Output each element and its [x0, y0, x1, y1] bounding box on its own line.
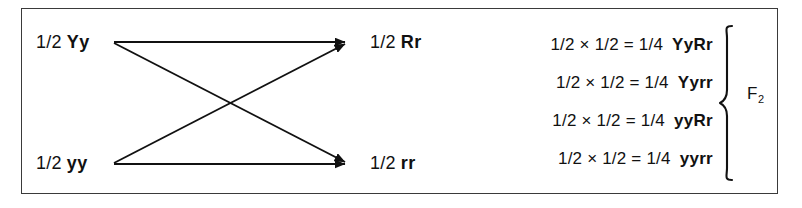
product-row: 1/2 × 1/2 = 1/4 Yyrr: [498, 64, 713, 102]
product-row: 1/2 × 1/2 = 1/4 yyRr: [498, 102, 713, 140]
product-list: 1/2 × 1/2 = 1/4 YyRr 1/2 × 1/2 = 1/4 Yyr…: [498, 26, 713, 178]
f2-brace-group: F2: [719, 24, 779, 182]
product-genotype: yyrr: [680, 149, 713, 169]
product-expression: 1/2 × 1/2 = 1/4: [556, 73, 669, 93]
parent-genotype-yy: Yy: [67, 32, 90, 52]
product-expression: 1/2 × 1/2 = 1/4: [552, 111, 665, 131]
product-genotype: yyRr: [674, 111, 713, 131]
product-row: 1/2 × 1/2 = 1/4 YyRr: [498, 26, 713, 64]
product-row: 1/2 × 1/2 = 1/4 yyrr: [498, 140, 713, 178]
product-genotype: YyRr: [672, 35, 713, 55]
parent-label-yy-recessive: 1/2 yy: [36, 154, 87, 172]
offspring-probability-rr: 1/2: [370, 32, 396, 52]
offspring-label-rr-recessive: 1/2 rr: [370, 154, 415, 172]
f2-generation-label: F2: [747, 84, 764, 104]
parent-label-yy: 1/2 Yy: [36, 33, 89, 51]
offspring-probability-rr-recessive: 1/2: [370, 153, 396, 173]
product-expression: 1/2 × 1/2 = 1/4: [558, 149, 671, 169]
offspring-label-rr: 1/2 Rr: [370, 33, 421, 51]
offspring-genotype-rr: Rr: [401, 32, 422, 52]
offspring-genotype-rr-recessive: rr: [401, 153, 416, 173]
parent-probability-yy-recessive: 1/2: [36, 153, 62, 173]
product-expression: 1/2 × 1/2 = 1/4: [550, 35, 663, 55]
curly-brace-icon: [719, 24, 749, 182]
genetics-cross-figure: 1/2 Yy 1/2 yy 1/2 Rr 1/2 rr 1/2 × 1/2 = …: [0, 0, 802, 208]
parent-probability-yy: 1/2: [36, 32, 62, 52]
product-genotype: Yyrr: [678, 73, 713, 93]
parent-genotype-yy-recessive: yy: [67, 153, 88, 173]
